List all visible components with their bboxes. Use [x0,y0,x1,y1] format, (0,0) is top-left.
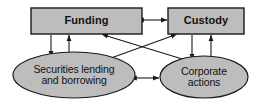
node-funding[interactable] [31,8,142,34]
diagram-graphics [0,0,260,104]
node-securities-lending[interactable] [13,52,135,98]
node-corporate-actions[interactable] [160,56,248,98]
diagram-canvas: Funding Custody Securities lending and b… [0,0,260,104]
node-layer [13,8,248,98]
edge-funding-corporate-actions [107,36,192,62]
node-custody[interactable] [168,8,244,34]
